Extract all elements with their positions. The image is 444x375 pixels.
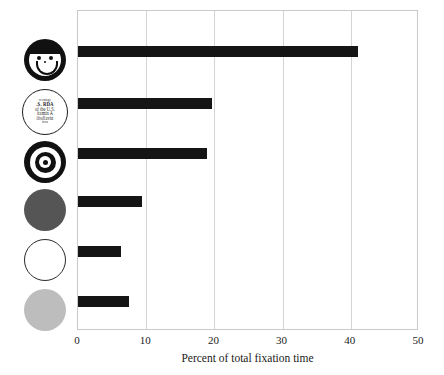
x-tick-label-40: 40 bbox=[344, 334, 355, 346]
plot-area bbox=[77, 10, 418, 330]
category-icon-cell-bullseye-target bbox=[14, 137, 76, 187]
bar-dark-gray-disc bbox=[78, 196, 142, 207]
category-icon-cell-dark-gray-disc bbox=[14, 185, 76, 235]
x-tick-label-50: 50 bbox=[413, 334, 424, 346]
category-icon-cell-nutrition-label: rcentage .S. RDA of the U.S. itamin A ib… bbox=[14, 87, 76, 137]
white-disc-icon bbox=[24, 239, 66, 281]
gridline-40 bbox=[351, 11, 352, 329]
light-gray-disc-icon bbox=[24, 289, 66, 331]
bullseye-target-icon bbox=[24, 141, 66, 183]
x-tick-label-0: 0 bbox=[74, 334, 80, 346]
category-icon-cell-light-gray-disc bbox=[14, 285, 76, 335]
smiley-face-icon bbox=[24, 39, 66, 81]
nutrition-label-line-6: iron bbox=[42, 121, 48, 125]
target-ring-3 bbox=[35, 152, 56, 173]
x-tick-label-10: 10 bbox=[140, 334, 151, 346]
bar-nutrition-label bbox=[78, 98, 212, 109]
target-ring-2 bbox=[30, 147, 61, 178]
category-icon-column: rcentage .S. RDA of the U.S. itamin A ib… bbox=[14, 10, 76, 330]
category-icon-cell-smiley-face bbox=[14, 35, 76, 85]
bar-white-disc bbox=[78, 246, 121, 257]
nutrition-label-icon: rcentage .S. RDA of the U.S. itamin A ib… bbox=[22, 89, 68, 135]
gridline-20 bbox=[214, 11, 215, 329]
dark-gray-disc-icon bbox=[24, 189, 66, 231]
category-icon-cell-white-disc bbox=[14, 235, 76, 285]
target-center bbox=[43, 160, 48, 165]
x-axis-tick-labels: 01020304050 bbox=[0, 334, 444, 350]
target-ring-4 bbox=[39, 156, 51, 168]
bar-smiley-face bbox=[78, 46, 358, 57]
smiley-eye-right bbox=[49, 56, 53, 60]
smiley-hair bbox=[29, 43, 61, 54]
bar-chart-figure: rcentage .S. RDA of the U.S. itamin A ib… bbox=[0, 0, 444, 375]
gridline-30 bbox=[283, 11, 284, 329]
x-axis-title: Percent of total fixation time bbox=[77, 352, 418, 364]
smiley-eye-left bbox=[37, 56, 41, 60]
x-tick-label-20: 20 bbox=[208, 334, 219, 346]
bar-bullseye-target bbox=[78, 148, 207, 159]
x-tick-label-30: 30 bbox=[276, 334, 287, 346]
gridline-10 bbox=[146, 11, 147, 329]
bar-light-gray-disc bbox=[78, 296, 129, 307]
